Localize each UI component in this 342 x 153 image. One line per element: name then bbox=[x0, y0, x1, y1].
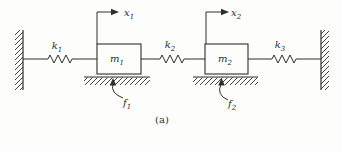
label-k1-sub: 1 bbox=[58, 46, 62, 54]
label-f2-sub: 2 bbox=[231, 104, 237, 112]
spring-k3 bbox=[248, 55, 321, 63]
label-k2: k2 bbox=[165, 39, 176, 53]
label-x1: x1 bbox=[124, 7, 134, 21]
label-x2-sub: 2 bbox=[236, 13, 242, 21]
label-x2: x2 bbox=[231, 7, 242, 21]
two-mass-spring-diagram: k1 k2 k3 m1 m2 x1 x2 f1 f2 (a) bbox=[0, 0, 342, 153]
spring-k1 bbox=[23, 55, 97, 63]
right-wall bbox=[321, 30, 329, 90]
label-m2-base: m bbox=[218, 53, 227, 64]
diagram-svg: k1 k2 k3 m1 m2 x1 x2 f1 f2 (a) bbox=[0, 0, 342, 153]
ground-m1 bbox=[84, 77, 150, 85]
label-k3: k3 bbox=[275, 39, 286, 53]
label-m1-sub: 1 bbox=[120, 59, 124, 67]
label-k3-sub: 3 bbox=[281, 45, 286, 53]
label-x1-sub: 1 bbox=[130, 13, 134, 21]
displacement-arrow-x2 bbox=[206, 9, 229, 44]
label-m2-sub: 2 bbox=[227, 59, 233, 67]
label-f2: f2 bbox=[227, 98, 237, 112]
label-f1-sub: 1 bbox=[127, 103, 131, 111]
label-k1: k1 bbox=[52, 40, 63, 54]
label-m1-base: m bbox=[110, 53, 119, 64]
label-f1: f1 bbox=[122, 97, 131, 111]
figure-caption: (a) bbox=[155, 114, 169, 125]
left-wall bbox=[15, 30, 23, 90]
displacement-arrow-x1 bbox=[97, 9, 119, 44]
spring-k2 bbox=[141, 55, 205, 63]
ground-m2 bbox=[193, 77, 258, 85]
label-k2-sub: 2 bbox=[170, 45, 176, 53]
